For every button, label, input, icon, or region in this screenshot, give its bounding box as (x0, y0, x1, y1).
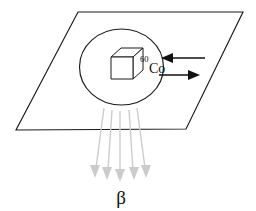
beta-ray-arrowhead (90, 165, 100, 178)
beta-ray (129, 110, 133, 170)
beta-ray (96, 108, 104, 168)
beta-ray-arrowhead (141, 165, 151, 178)
beta-ray (108, 110, 112, 170)
physics-diagram-canvas: 60 Co β (0, 0, 256, 211)
beta-emission-rays (90, 108, 151, 182)
wu-experiment-diagram: 60 Co β (0, 0, 256, 211)
beta-ray-arrowhead (115, 169, 125, 182)
beta-particle-label: β (116, 187, 126, 208)
cobalt-60-cube (111, 48, 143, 79)
beta-ray-arrowhead (129, 167, 139, 180)
isotope-mass-number-label: 60 (140, 54, 149, 64)
beta-ray (137, 108, 145, 168)
field-arrow-right-head (188, 70, 200, 80)
field-arrow-left (161, 53, 205, 63)
isotope-symbol-label: Co (149, 61, 165, 76)
cube-face-front (111, 57, 133, 79)
beta-ray-arrowhead (102, 167, 112, 180)
